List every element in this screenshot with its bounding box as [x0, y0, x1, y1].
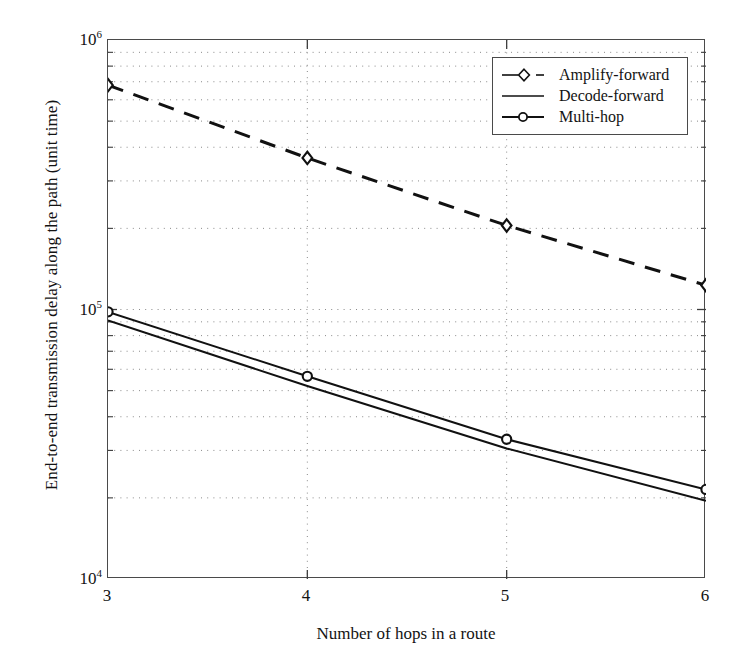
x-tick-3: 3: [87, 586, 127, 606]
series-line-decode-forward: [108, 321, 706, 501]
data-point-marker: [108, 307, 113, 316]
data-point-marker: [303, 372, 312, 381]
solid-line-sample-icon: [501, 86, 553, 106]
legend-box: Amplify-forward Decode-forward Multi-hop: [492, 57, 688, 135]
legend-item-amplify-forward: Amplify-forward: [501, 64, 679, 85]
y-tick-1e6: 106: [42, 29, 102, 48]
legend-label-multi-hop: Multi-hop: [559, 108, 624, 126]
y-tick-1e5: 105: [42, 299, 102, 318]
x-axis-label: Number of hops in a route: [107, 624, 705, 644]
data-point-marker: [108, 79, 113, 91]
legend-item-multi-hop: Multi-hop: [501, 106, 679, 127]
series-line-multi-hop: [108, 312, 706, 490]
x-tick-5: 5: [485, 586, 525, 606]
data-point-marker: [701, 485, 706, 494]
figure-chart: End-to-end transmission delay along the …: [0, 0, 744, 671]
data-series: [108, 79, 706, 501]
legend-label-decode-forward: Decode-forward: [559, 87, 664, 105]
data-point-marker: [303, 152, 313, 164]
legend-item-decode-forward: Decode-forward: [501, 85, 679, 106]
y-tick-1e4: 104: [42, 568, 102, 587]
x-tick-4: 4: [286, 586, 326, 606]
legend-label-amplify-forward: Amplify-forward: [559, 66, 669, 84]
circle-solid-sample-icon: [501, 107, 553, 127]
data-point-marker: [502, 219, 512, 231]
diamond-dashed-sample-icon: [501, 65, 553, 85]
y-axis-tick-labels: 106 105 104: [40, 0, 102, 671]
data-point-marker: [701, 279, 706, 291]
data-point-marker: [502, 435, 511, 444]
x-tick-6: 6: [685, 586, 725, 606]
